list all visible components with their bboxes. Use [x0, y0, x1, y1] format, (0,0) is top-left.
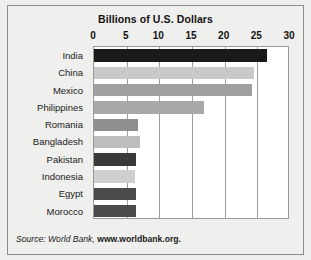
- x-tick-label: 20: [209, 30, 239, 41]
- category-label: Morocco: [0, 203, 88, 220]
- x-axis-tick-labels: 051015202530: [0, 30, 311, 44]
- x-tick-label: 30: [274, 30, 304, 41]
- x-tick-label: 5: [111, 30, 141, 41]
- bar-row: [94, 64, 289, 81]
- bar: [94, 136, 140, 148]
- bar-row: [94, 151, 289, 168]
- category-label: Philippines: [0, 99, 88, 116]
- bar: [94, 153, 136, 165]
- bar: [94, 84, 252, 96]
- bar: [94, 119, 138, 131]
- bar-row: [94, 185, 289, 202]
- bar-row: [94, 203, 289, 220]
- bar: [94, 188, 136, 200]
- y-axis-category-labels: IndiaChinaMexicoPhilippinesRomaniaBangla…: [0, 47, 88, 220]
- x-tick-label: 0: [78, 30, 108, 41]
- x-tick-label: 25: [241, 30, 271, 41]
- category-label: Mexico: [0, 82, 88, 99]
- chart-title: Billions of U.S. Dollars: [0, 13, 311, 25]
- category-label: Pakistan: [0, 151, 88, 168]
- bar: [94, 49, 267, 61]
- bar-row: [94, 116, 289, 133]
- bar-series: [94, 47, 289, 220]
- category-label: Romania: [0, 116, 88, 133]
- figure: Billions of U.S. Dollars 051015202530 In…: [0, 0, 311, 260]
- bar-row: [94, 133, 289, 150]
- bar: [94, 170, 135, 182]
- source-prefix: Source: World Bank,: [16, 234, 97, 244]
- bar-row: [94, 47, 289, 64]
- category-label: India: [0, 47, 88, 64]
- bar-row: [94, 82, 289, 99]
- x-tick-label: 10: [143, 30, 173, 41]
- category-label: Indonesia: [0, 168, 88, 185]
- source-link: www.worldbank.org.: [97, 234, 181, 244]
- source-note: Source: World Bank, www.worldbank.org.: [16, 234, 181, 244]
- category-label: Egypt: [0, 185, 88, 202]
- bar-row: [94, 99, 289, 116]
- category-label: Bangladesh: [0, 133, 88, 150]
- bar-row: [94, 168, 289, 185]
- category-label: China: [0, 64, 88, 81]
- bar: [94, 101, 204, 113]
- bar: [94, 67, 254, 79]
- bar: [94, 205, 136, 217]
- x-tick-label: 15: [176, 30, 206, 41]
